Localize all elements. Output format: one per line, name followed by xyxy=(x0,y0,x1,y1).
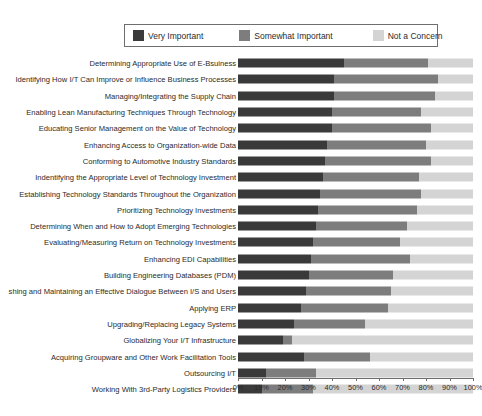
axis-tick-label: 50% xyxy=(348,383,363,392)
bar-segment-not-a-concern xyxy=(426,140,473,149)
bar-segment-very-important xyxy=(238,287,306,296)
axis-tick xyxy=(403,378,404,381)
bar-segment-somewhat-important xyxy=(344,59,429,68)
stacked-bar xyxy=(238,287,473,296)
bar-segment-not-a-concern xyxy=(410,254,473,263)
axis-tick xyxy=(262,378,263,381)
axis-tick xyxy=(356,378,357,381)
bar-segment-somewhat-important xyxy=(306,287,391,296)
chart-row: Acquiring Groupware and Other Work Facil… xyxy=(0,348,482,364)
legend-swatch-very-important xyxy=(133,30,144,41)
axis-tick-label: 20% xyxy=(278,383,293,392)
chart-row: Enhancing Access to Organization-wide Da… xyxy=(0,137,482,153)
stacked-bar xyxy=(238,238,473,247)
bar-segment-not-a-concern xyxy=(388,303,473,312)
category-label: Outsourcing I/T xyxy=(184,368,236,377)
category-label: shing and Maintaining an Effective Dialo… xyxy=(9,287,236,296)
chart-row: shing and Maintaining an Effective Dialo… xyxy=(0,283,482,299)
axis-tick xyxy=(309,378,310,381)
bar-segment-somewhat-important xyxy=(323,173,419,182)
bar-segment-somewhat-important xyxy=(313,238,400,247)
bar-segment-somewhat-important xyxy=(334,75,437,84)
bar-segment-very-important xyxy=(238,75,334,84)
category-label: Enhancing EDI Capabilities xyxy=(144,254,236,263)
legend-label-very-important: Very Important xyxy=(148,31,203,41)
chart-row: Conforming to Automotive Industry Standa… xyxy=(0,153,482,169)
stacked-bar xyxy=(238,189,473,198)
chart-row: Identifying How I/T Can Improve or Influ… xyxy=(0,71,482,87)
bar-segment-somewhat-important xyxy=(294,319,365,328)
legend-swatch-somewhat-important xyxy=(239,30,250,41)
stacked-bar xyxy=(238,271,473,280)
axis-tick xyxy=(379,378,380,381)
stacked-bar xyxy=(238,254,473,263)
category-label: Applying ERP xyxy=(189,303,236,312)
bar-segment-very-important xyxy=(238,91,334,100)
chart-legend: Very Important Somewhat Important Not a … xyxy=(124,24,438,47)
category-label: Prioritizing Technology Investments xyxy=(117,205,236,214)
bar-segment-somewhat-important xyxy=(334,91,435,100)
axis-tick xyxy=(426,378,427,381)
chart-row: Determining Appropriate Use of E-Bsuines… xyxy=(0,55,482,71)
bar-segment-very-important xyxy=(238,336,283,345)
bar-segment-somewhat-important xyxy=(283,336,292,345)
category-label: Working With 3rd-Party Logistics Provide… xyxy=(92,385,236,394)
bar-segment-very-important xyxy=(238,205,318,214)
bar-segment-not-a-concern xyxy=(370,352,473,361)
bar-segment-somewhat-important xyxy=(301,303,388,312)
stacked-bar xyxy=(238,124,473,133)
stacked-bar xyxy=(238,59,473,68)
bar-segment-very-important xyxy=(238,238,313,247)
category-label: Identifying How I/T Can Improve or Influ… xyxy=(15,75,236,84)
bar-segment-not-a-concern xyxy=(421,189,473,198)
chart-row: Determining When and How to Adopt Emergi… xyxy=(0,218,482,234)
bar-segment-very-important xyxy=(238,352,304,361)
axis-tick-label: 60% xyxy=(372,383,387,392)
axis-tick-label: 80% xyxy=(419,383,434,392)
stacked-bar xyxy=(238,75,473,84)
legend-item-somewhat-important: Somewhat Important xyxy=(239,30,332,41)
stacked-bar xyxy=(238,336,473,345)
bar-segment-very-important xyxy=(238,303,301,312)
stacked-bar xyxy=(238,222,473,231)
bar-segment-somewhat-important xyxy=(304,352,370,361)
bar-segment-not-a-concern xyxy=(428,59,473,68)
chart-row: Indentifying the Appropriate Level of Te… xyxy=(0,169,482,185)
bar-segment-somewhat-important xyxy=(332,108,421,117)
axis-tick xyxy=(238,378,239,381)
legend-label-not-a-concern: Not a Concern xyxy=(388,31,443,41)
stacked-bar xyxy=(238,140,473,149)
bar-segment-somewhat-important xyxy=(318,205,417,214)
bar-segment-very-important xyxy=(238,271,309,280)
bar-segment-somewhat-important xyxy=(332,124,431,133)
category-label: Enabling Lean Manufacturing Techniques T… xyxy=(26,108,236,117)
bar-segment-not-a-concern xyxy=(431,156,473,165)
stacked-bar xyxy=(238,91,473,100)
bar-segment-not-a-concern xyxy=(435,91,473,100)
stacked-bar-chart: Very Important Somewhat Important Not a … xyxy=(0,0,482,416)
bar-segment-not-a-concern xyxy=(292,336,473,345)
category-label: Evaluating/Measuring Return on Technolog… xyxy=(44,238,236,247)
chart-row: Enhancing EDI Capabilities xyxy=(0,251,482,267)
bar-segment-very-important xyxy=(238,59,344,68)
stacked-bar xyxy=(238,368,473,377)
category-label: Conforming to Automotive Industry Standa… xyxy=(83,156,236,165)
bar-segment-very-important xyxy=(238,254,311,263)
bar-segment-not-a-concern xyxy=(400,238,473,247)
axis-tick xyxy=(473,378,474,381)
x-axis: 0%10%20%30%40%50%60%70%80%90%100% xyxy=(238,378,473,379)
plot-area: Determining Appropriate Use of E-Bsuines… xyxy=(0,55,482,385)
bar-segment-somewhat-important xyxy=(266,368,315,377)
chart-row: Educating Senior Management on the Value… xyxy=(0,120,482,136)
bar-segment-not-a-concern xyxy=(421,108,473,117)
axis-tick-label: 70% xyxy=(395,383,410,392)
category-label: Building Engineering Databases (PDM) xyxy=(104,271,236,280)
legend-label-somewhat-important: Somewhat Important xyxy=(254,31,332,41)
bar-segment-very-important xyxy=(238,124,332,133)
bar-segment-somewhat-important xyxy=(316,222,408,231)
stacked-bar xyxy=(238,108,473,117)
stacked-bar xyxy=(238,319,473,328)
axis-tick xyxy=(332,378,333,381)
chart-row: Upgrading/Replacing Legacy Systems xyxy=(0,316,482,332)
legend-item-not-a-concern: Not a Concern xyxy=(373,30,443,41)
